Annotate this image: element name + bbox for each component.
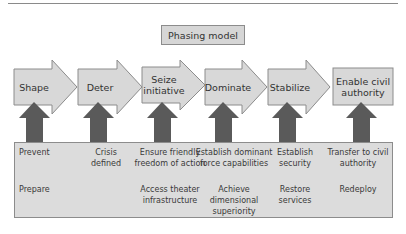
activity-shape-1: Prevent [19,147,74,158]
activity-enable-1: Transfer to civil authority [325,147,391,169]
up-arrow-icon [19,102,50,142]
activity-stabilize-1: Establish security [265,147,325,169]
up-arrow-icon [83,102,114,142]
up-arrow-icon [208,102,239,142]
activities-box: Prevent Crisis defined Ensure friendly f… [14,142,393,218]
activity-deter-1: Crisis defined [81,147,131,169]
activity-shape-2: Prepare [19,184,74,195]
activity-dominate-2: Achieve dimensional superiority [193,184,275,217]
up-arrow-icon [147,102,178,142]
phase-label-dominate: Dominate [206,69,250,105]
up-arrow-icon [346,102,377,142]
activity-enable-2: Redeploy [325,184,391,195]
phase-label-enable-civil-authority: Enable civil authority [333,68,393,105]
phase-label-seize-initiative: Seize initiative [144,67,184,103]
phase-label-stabilize: Stabilize [268,69,312,105]
phase-label-deter: Deter [80,69,120,105]
activity-stabilize-2: Restore services [265,184,325,206]
up-arrow-icon [272,102,303,142]
phase-label-shape: Shape [14,69,54,105]
activity-dominate-1: Establish dominant force capabilities [193,147,275,169]
